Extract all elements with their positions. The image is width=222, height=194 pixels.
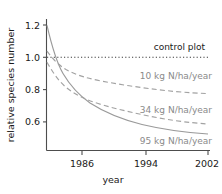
x-axis-tick-label: 2002 [195, 158, 219, 169]
chart-svg: 1.2 1.0 0.8 0.6 1986 1994 2002 year rela… [0, 0, 222, 194]
series-label-control: control plot [154, 42, 206, 52]
series-label-34kg: 34 kg N/ha/year [140, 105, 212, 115]
y-axis-tick-label: 0.6 [25, 116, 40, 127]
chart-figure: 1.2 1.0 0.8 0.6 1986 1994 2002 year rela… [0, 0, 222, 194]
x-axis-title: year [102, 174, 123, 185]
series-label-10kg: 10 kg N/ha/year [140, 71, 212, 81]
y-axis-tick-label: 0.8 [25, 84, 40, 95]
x-axis-tick-label: 1994 [134, 158, 158, 169]
y-axis-tick-label: 1.0 [25, 52, 40, 63]
x-axis-tick-label: 1986 [70, 158, 94, 169]
series-label-95kg: 95 kg N/ha/year [140, 136, 212, 146]
y-axis-tick-label: 1.2 [25, 20, 40, 31]
y-axis-title: relative species number [5, 28, 16, 143]
